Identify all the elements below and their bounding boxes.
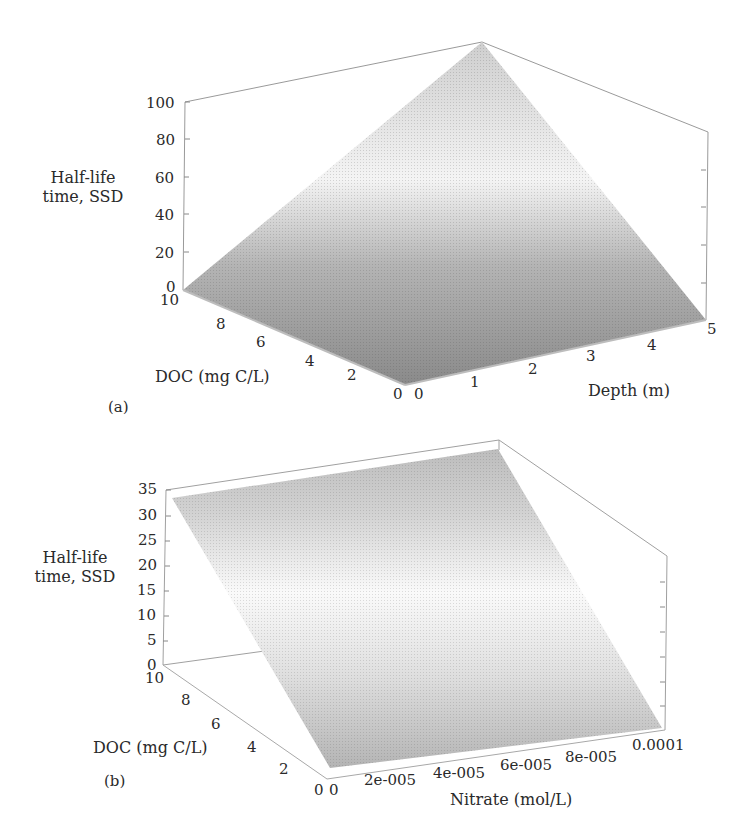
z-axis-label-line2: time, SSD xyxy=(30,567,120,586)
y-tick: 6 xyxy=(256,334,266,350)
z-tick: 20 xyxy=(138,557,157,573)
y-tick: 10 xyxy=(160,292,179,308)
x-tick: 8e-005 xyxy=(565,749,617,765)
y-tick: 6 xyxy=(211,716,221,732)
panel-a: Half-life time, SSD 100 80 60 40 20 0 10… xyxy=(0,0,745,420)
y-axis-label-b: DOC (mg C/L) xyxy=(93,738,208,757)
x-tick: 2 xyxy=(528,361,538,377)
y-tick: 4 xyxy=(305,353,315,369)
panel-label-a: (a) xyxy=(108,398,129,417)
z-axis-label-line1: Half-life xyxy=(30,548,120,567)
z-tick: 25 xyxy=(138,532,157,548)
z-axis-label-line2: time, SSD xyxy=(38,187,128,206)
panel-label-b: (b) xyxy=(104,772,125,791)
x-tick: 6e-005 xyxy=(500,757,552,773)
z-tick: 60 xyxy=(155,170,174,186)
z-axis-label-b: Half-life time, SSD xyxy=(30,548,120,586)
surface-plot-a xyxy=(0,0,745,420)
y-tick: 2 xyxy=(279,761,289,777)
z-tick: 40 xyxy=(155,207,174,223)
y-tick: 0 xyxy=(314,782,324,798)
x-tick: 1 xyxy=(470,374,480,390)
x-tick: 4e-005 xyxy=(433,765,485,781)
y-tick: 10 xyxy=(145,670,164,686)
x-tick: 0.0001 xyxy=(632,737,685,753)
z-tick: 10 xyxy=(137,607,156,623)
x-tick: 2e-005 xyxy=(364,772,416,788)
x-tick: 3 xyxy=(586,348,596,364)
y-tick: 8 xyxy=(216,316,226,332)
x-tick: 4 xyxy=(647,337,657,353)
y-tick: 4 xyxy=(247,739,257,755)
x-axis-label-b: Nitrate (mol/L) xyxy=(450,790,572,809)
x-tick: 5 xyxy=(707,321,717,337)
x-tick: 0 xyxy=(414,386,424,402)
z-tick: 80 xyxy=(156,132,175,148)
x-tick: 0 xyxy=(329,782,339,798)
y-tick: 0 xyxy=(393,386,403,402)
y-tick: 2 xyxy=(347,367,357,383)
z-tick: 5 xyxy=(147,632,157,648)
y-tick: 8 xyxy=(181,692,191,708)
z-tick: 30 xyxy=(138,507,157,523)
x-axis-label-a: Depth (m) xyxy=(588,381,670,400)
z-tick: 15 xyxy=(137,582,156,598)
panel-b: Half-life time, SSD 35 30 25 20 15 10 5 … xyxy=(0,420,745,835)
z-tick: 20 xyxy=(155,245,174,261)
z-axis-label-line1: Half-life xyxy=(38,168,128,187)
y-axis-label-a: DOC (mg C/L) xyxy=(155,367,270,386)
z-axis-label-a: Half-life time, SSD xyxy=(38,168,128,206)
z-tick: 35 xyxy=(138,481,157,497)
z-tick: 100 xyxy=(146,95,175,111)
